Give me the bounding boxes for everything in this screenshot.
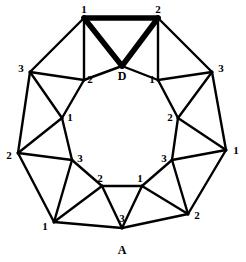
graph-edge-outer — [30, 18, 84, 72]
vertex-label-inner-bottom-left: 3 — [77, 153, 83, 164]
graph-edge-spoke — [172, 150, 226, 160]
graph-vertex-node — [141, 185, 144, 188]
graph-edge-spoke — [84, 18, 122, 66]
graph-vertex-node — [101, 185, 104, 188]
graph-edge-spoke — [30, 72, 84, 80]
graph-edge-spoke — [158, 72, 212, 80]
inner-ring-edges — [62, 66, 178, 186]
vertex-label-inner-top: D — [118, 70, 127, 82]
graph-edge-spoke — [54, 186, 102, 222]
graph-vertex-node — [121, 65, 124, 68]
vertex-label-apex-letter: A — [118, 244, 127, 256]
vertex-label-inner-bottom-east: 1 — [137, 173, 143, 184]
graph-vertex-node — [71, 159, 74, 162]
diagram-canvas: 12312123D123123123A — [0, 0, 246, 262]
outer-ring-edges — [18, 18, 226, 228]
vertex-label-inner-bottom-west: 2 — [97, 173, 103, 184]
vertex-label-outer-left: 2 — [6, 150, 12, 161]
graph-edge-outer — [18, 72, 30, 153]
graph-vertex-node — [177, 117, 180, 120]
graph-edge-spoke — [18, 153, 72, 160]
graph-vertex-node — [53, 221, 56, 224]
graph-edge-outer — [158, 18, 212, 72]
graph-edge-spoke — [122, 18, 158, 66]
graph-vertex-node — [83, 17, 86, 20]
graph-vertex-node — [61, 117, 64, 120]
vertex-label-inner-top-left: 2 — [87, 74, 93, 85]
spoke-edges — [18, 18, 226, 228]
vertex-label-inner-right: 2 — [167, 112, 173, 123]
vertex-label-outer-right-upper: 3 — [218, 63, 224, 74]
vertex-label-outer-bottom-right: 2 — [194, 210, 200, 221]
vertex-label-inner-top-right: 1 — [149, 74, 155, 85]
graph-edge-inner — [62, 80, 84, 118]
graph-edge-outer — [188, 150, 226, 214]
graph-vertex-node — [157, 17, 160, 20]
graph-vertex-node — [187, 213, 190, 216]
vertex-dots — [17, 17, 228, 230]
graph-edge-spoke — [178, 118, 226, 150]
graph-vertex-node — [83, 79, 86, 82]
graph-vertex-node — [157, 79, 160, 82]
graph-edge-outer — [54, 222, 122, 228]
vertex-label-outer-left-upper: 3 — [18, 63, 24, 74]
graph-edge-outer — [18, 153, 54, 222]
vertex-label-inner-bottom-right: 3 — [161, 153, 167, 164]
vertex-label-outer-top-right: 2 — [155, 4, 161, 15]
graph-vertex-node — [171, 159, 174, 162]
vertex-label-inner-left: 1 — [67, 112, 73, 123]
graph-vertex-node — [121, 227, 124, 230]
graph-edge-inner — [62, 118, 72, 160]
graph-edge-inner — [142, 160, 172, 186]
graph-vertex-node — [211, 71, 214, 74]
vertex-label-outer-right: 1 — [233, 145, 239, 156]
graph-edge-spoke — [30, 72, 62, 118]
vertex-label-outer-bottom-left: 1 — [42, 221, 48, 232]
graph-vertex-node — [225, 149, 228, 152]
graph-edge-inner — [172, 118, 178, 160]
graph-edge-outer — [122, 214, 188, 228]
vertex-label-apex-number: 3 — [119, 213, 125, 224]
vertex-label-outer-top-left: 1 — [81, 4, 87, 15]
graph-edge-spoke — [18, 118, 62, 153]
graph-edge-spoke — [178, 72, 212, 118]
graph-edge-spoke — [54, 160, 72, 222]
graph-vertex-node — [17, 152, 20, 155]
graph-edge-outer — [212, 72, 226, 150]
graph-vertex-node — [29, 71, 32, 74]
